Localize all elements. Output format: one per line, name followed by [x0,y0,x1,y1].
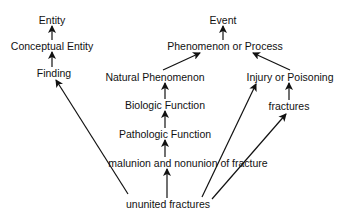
node-phenomenon-or-process: Phenomenon or Process [167,40,283,52]
node-conceptual-entity: Conceptual Entity [11,40,93,52]
concept-hierarchy-diagram: Entity Conceptual Entity Finding Event P… [0,0,347,220]
edge-natural_phenomenon-to-phenomenon_or_process [163,53,200,70]
node-event: Event [210,14,237,26]
edge-ununited_fractures-to-finding [56,80,128,194]
node-pathologic-function: Pathologic Function [119,128,211,140]
node-entity: Entity [39,14,65,26]
node-malunion-and-nonunion-of-fracture: malunion and nonunion of fracture [108,157,267,169]
node-fractures: fractures [269,100,310,112]
node-injury-or-poisoning: Injury or Poisoning [247,71,334,83]
node-ununited-fractures: ununited fractures [126,198,210,210]
node-natural-phenomenon: Natural Phenomenon [105,71,204,83]
node-biologic-function: Biologic Function [125,99,205,111]
node-finding: Finding [37,67,71,79]
edge-injury_or_poisoning-to-phenomenon_or_process [253,53,290,70]
